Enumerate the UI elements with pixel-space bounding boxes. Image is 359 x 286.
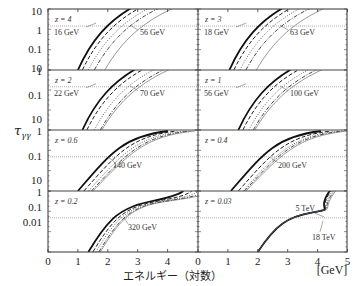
tau-curve xyxy=(234,7,293,70)
panel-z-label: z = 1 xyxy=(204,76,222,85)
x-tick-label: 1 xyxy=(75,255,81,267)
panel-z-label: z = 4 xyxy=(54,15,72,24)
energy-annotation: 18 TeV xyxy=(312,233,336,242)
tau-curve xyxy=(258,189,334,252)
energy-annotation: 100 GeV xyxy=(290,89,319,98)
y-tick-label: 0.1 xyxy=(28,43,42,55)
x-tick-label: 3 xyxy=(285,255,291,267)
y-tick-label: 0.1 xyxy=(28,89,42,101)
tau-curve xyxy=(256,7,327,70)
y-tick-label: 0.1 xyxy=(28,150,42,162)
panel-curves xyxy=(88,191,211,252)
x-tick-label: 2 xyxy=(105,255,111,267)
panel-z-label: z = 0.2 xyxy=(54,197,78,206)
tau-curve xyxy=(93,191,192,252)
y-tick-label: 1 xyxy=(37,186,43,198)
panel-z-label: z = 3 xyxy=(204,15,222,24)
energy-annotation: 22 GeV xyxy=(54,89,79,98)
tau-curve xyxy=(258,189,336,252)
energy-annotation: 5 TeV xyxy=(295,204,315,213)
y-tick-label: 0.01 xyxy=(23,216,42,228)
tau-curve xyxy=(102,68,173,130)
x-tick-label: 0 xyxy=(45,255,51,267)
y-tick-label: 1 xyxy=(37,125,43,137)
tau-curve xyxy=(87,68,146,130)
x-tick-label: 1 xyxy=(225,255,231,267)
tau-curve xyxy=(229,7,284,70)
annotation-leader xyxy=(320,221,323,232)
energy-annotation: 140 GeV xyxy=(113,161,142,170)
panel-curves xyxy=(258,189,337,252)
y-tick-label: 1 xyxy=(37,65,43,77)
tau-curve xyxy=(246,7,313,70)
panel-curves xyxy=(82,68,172,130)
annotation-leader xyxy=(86,23,96,27)
x-tick-label: 2 xyxy=(255,255,261,267)
energy-annotation: 18 GeV xyxy=(204,28,229,37)
y-tick-label: 10 xyxy=(31,5,43,17)
x-tick-label: 0 xyxy=(195,255,201,267)
tau-curve xyxy=(105,7,176,70)
tau-curve xyxy=(258,189,333,252)
annotation-leader xyxy=(314,213,324,217)
tau-gamma-gamma-panel-chart: z = 416 GeV56 GeVz = 318 GeV63 GeVz = 22… xyxy=(0,0,359,286)
panel-curves xyxy=(238,68,325,130)
y-tick-label: 0.1 xyxy=(28,201,42,213)
x-axis-unit: [GeV] xyxy=(317,263,348,277)
y-axis-title: τγγ xyxy=(14,123,31,140)
panel-z-label: z = 2 xyxy=(54,76,72,85)
y-tick-label: 10 xyxy=(31,174,43,186)
energy-annotation: 56 GeV xyxy=(204,89,229,98)
annotation-leader xyxy=(86,84,96,88)
energy-annotation: 200 GeV xyxy=(278,161,307,170)
panel-curves xyxy=(78,7,176,70)
energy-annotation: 70 GeV xyxy=(140,89,165,98)
y-tick-label: 1 xyxy=(37,24,43,36)
x-axis-title: エネルギー（対数） xyxy=(123,269,222,283)
y-tick-label: 10 xyxy=(31,113,43,125)
tau-curve xyxy=(82,7,141,70)
tau-curve xyxy=(94,7,161,70)
x-tick-label: 3 xyxy=(135,255,141,267)
x-tick-label: 4 xyxy=(165,255,171,267)
energy-annotation: 16 GeV xyxy=(54,28,79,37)
panel-z-label: z = 0.4 xyxy=(204,136,228,145)
tau-curve xyxy=(93,131,195,191)
tau-curve xyxy=(100,68,167,130)
annotation-leader xyxy=(236,23,246,27)
annotation-leader xyxy=(236,84,246,88)
panel-z-label: z = 0.03 xyxy=(204,197,232,206)
energy-annotation: 63 GeV xyxy=(290,28,315,37)
tau-curve xyxy=(243,68,302,130)
energy-annotation: 56 GeV xyxy=(140,28,165,37)
tau-curve xyxy=(78,7,133,70)
tau-curve xyxy=(255,68,326,130)
panel-curves xyxy=(229,7,327,70)
energy-annotation: 320 GeV xyxy=(128,223,157,232)
tau-curve xyxy=(258,189,331,252)
tau-curve xyxy=(82,68,137,130)
tau-curve xyxy=(238,68,293,130)
panel-z-label: z = 0.6 xyxy=(54,136,78,145)
